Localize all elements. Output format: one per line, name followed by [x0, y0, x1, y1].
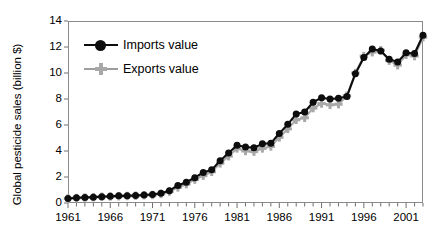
y-tick-label: 6 [34, 119, 62, 131]
legend-marker-circle-icon [84, 38, 118, 52]
y-tick-label: 8 [34, 93, 62, 105]
x-tick-label: 1986 [256, 212, 302, 224]
x-tick-label: 1991 [299, 212, 345, 224]
y-tick-label: 10 [34, 67, 62, 79]
y-tick-label: 0 [34, 197, 62, 209]
y-axis-title: Global pesticide sales (billion $) [0, 0, 34, 249]
y-tick-label: 12 [34, 41, 62, 53]
chart-legend: Imports value Exports value [84, 33, 244, 81]
pesticide-sales-chart: Global pesticide sales (billion $) 02468… [0, 0, 446, 249]
legend-item-exports: Exports value [84, 57, 244, 81]
legend-marker-cross-icon [84, 62, 118, 76]
x-tick-label: 1971 [130, 212, 176, 224]
legend-label-exports: Exports value [118, 62, 199, 76]
x-tick-label: 2001 [383, 212, 429, 224]
legend-item-imports: Imports value [84, 33, 244, 57]
x-tick-label: 1966 [87, 212, 133, 224]
x-tick-label: 1976 [172, 212, 218, 224]
y-tick-label: 14 [34, 15, 62, 27]
x-tick-label: 1961 [45, 212, 91, 224]
x-tick-label: 1981 [214, 212, 260, 224]
legend-label-imports: Imports value [118, 38, 198, 52]
y-tick-label: 4 [34, 145, 62, 157]
y-tick-label: 2 [34, 171, 62, 183]
x-tick-label: 1996 [341, 212, 387, 224]
